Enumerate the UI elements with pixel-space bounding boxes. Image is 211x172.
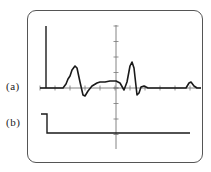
oscilloscope-plot <box>0 0 211 172</box>
trace-b-step <box>41 114 190 133</box>
trace-a-waveform <box>40 62 201 96</box>
